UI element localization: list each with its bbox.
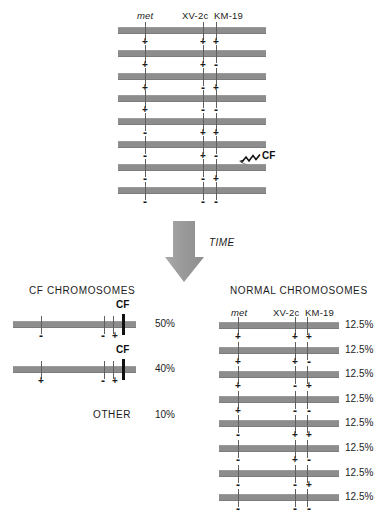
chromosome-bar (219, 322, 339, 329)
allele-km19: + (305, 332, 313, 342)
allele-met: + (234, 332, 242, 342)
time-arrow-label: TIME (209, 237, 235, 248)
allele-xv2c: + (291, 332, 299, 342)
chromosome-bar (118, 95, 266, 102)
top-locus-label-km19: KM-19 (214, 10, 243, 21)
top-locus-label-met: met (137, 10, 153, 21)
normal-row-percent: 12.5% (345, 442, 373, 453)
normal-chromosomes-heading: NORMAL CHROMOSOMES (230, 285, 368, 296)
allele-met: - (234, 455, 242, 465)
allele-xv2c: + (291, 455, 299, 465)
normal-row-percent: 12.5% (345, 368, 373, 379)
allele-xv2c: - (291, 504, 299, 514)
normal-row-percent: 12.5% (345, 393, 373, 404)
normal-row-percent: 12.5% (345, 344, 373, 355)
chromosome-bar (219, 445, 339, 452)
chromosome-bar (118, 73, 266, 80)
chromosome-bar (118, 50, 266, 57)
normal-row-percent: 12.5% (345, 319, 373, 330)
chromosome-bar (219, 396, 339, 403)
normal-row-percent: 12.5% (345, 467, 373, 478)
allele-xv2c: + (291, 430, 299, 440)
normal-row-percent: 12.5% (345, 491, 373, 502)
chromosome-bar (219, 347, 339, 354)
normal-chromosomes-panel: NORMAL CHROMOSOMES met XV-2c KM-19 +++12… (0, 285, 383, 517)
normal-row-percent: 12.5% (345, 417, 373, 428)
chromosome-bar (219, 420, 339, 427)
allele-xv2c: - (199, 197, 207, 207)
allele-km19: + (305, 430, 313, 440)
allele-km19: + (305, 381, 313, 391)
normal-locus-label-km19: KM-19 (305, 307, 334, 318)
chromosome-bar (118, 187, 266, 194)
cf-pointer-label: CF (262, 150, 275, 161)
top-locus-label-xv2c: XV-2c (182, 10, 208, 21)
chromosome-bar (118, 27, 266, 34)
top-panel: met XV-2c KM-19 +++++-+-++---++-+---+---… (0, 0, 383, 220)
allele-met: + (234, 381, 242, 391)
allele-met: - (234, 430, 242, 440)
chromosome-bar (219, 494, 339, 501)
allele-met: - (141, 197, 149, 207)
allele-km19: - (305, 504, 313, 514)
time-arrow-icon (165, 221, 205, 283)
chromosome-bar (118, 118, 266, 125)
cf-haplotype-figure: met XV-2c KM-19 +++++-+-++---++-+---+---… (0, 0, 383, 517)
allele-met: - (234, 504, 242, 514)
chromosome-bar (219, 371, 339, 378)
allele-km19: - (212, 197, 220, 207)
chromosome-bar (219, 470, 339, 477)
allele-km19: - (305, 455, 313, 465)
allele-xv2c: - (291, 381, 299, 391)
normal-locus-label-met: met (231, 307, 247, 318)
